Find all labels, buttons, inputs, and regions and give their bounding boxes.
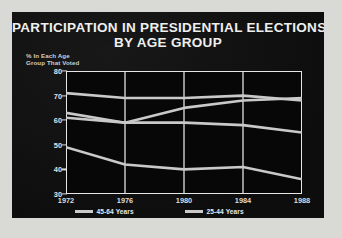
legend-swatch <box>75 210 93 213</box>
legend-label: 65 Years and Over <box>97 218 156 219</box>
x-tick-label: 1988 <box>294 196 310 205</box>
y-axis-caption-line-1: % In Each Age <box>26 52 122 59</box>
legend-item: 25-44 Years <box>185 208 244 215</box>
title-line-1: PARTICIPATION IN PRESIDENTIAL ELECTIONS <box>12 20 324 35</box>
x-tick-label: 1984 <box>235 196 251 205</box>
plot-area <box>66 71 302 194</box>
legend-label: 45-64 Years <box>97 208 134 215</box>
y-axis-caption: % In Each Age Group That Voted <box>26 52 122 66</box>
title-line-2: BY AGE GROUP <box>12 35 324 50</box>
legend-item: 65 Years and Over <box>75 218 155 219</box>
poster-background: PARTICIPATION IN PRESIDENTIAL ELECTIONS … <box>0 0 342 238</box>
legend-swatch <box>185 210 203 213</box>
y-axis-caption-line-2: Group That Voted <box>26 59 122 66</box>
legend-label: 25-44 Years <box>207 208 244 215</box>
x-tick-label: 1972 <box>58 196 74 205</box>
chart-panel: PARTICIPATION IN PRESIDENTIAL ELECTIONS … <box>12 12 324 218</box>
x-tick-label: 1976 <box>117 196 133 205</box>
legend-item: 45-64 Years <box>75 208 134 215</box>
x-axis-tick-labels: 19721976198019841988 <box>66 196 302 208</box>
y-axis-tick-marks <box>12 71 72 194</box>
plot-lines <box>66 71 302 194</box>
chart-title: PARTICIPATION IN PRESIDENTIAL ELECTIONS … <box>12 20 324 50</box>
x-tick-label: 1980 <box>176 196 192 205</box>
chart-legend: 45-64 Years25-44 Years65 Years and Over1… <box>42 208 312 218</box>
